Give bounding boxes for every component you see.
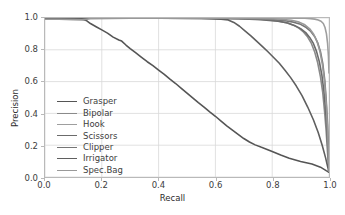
y-tick-mark (41, 114, 44, 115)
y-tick-mark (41, 17, 44, 18)
x-tick-label: 0.6 (209, 180, 223, 190)
legend-swatch-icon (57, 170, 77, 171)
x-tick-label: 0.8 (266, 180, 280, 190)
legend-item-hook[interactable]: Hook (57, 119, 123, 130)
y-tick-mark (41, 81, 44, 82)
legend-swatch-icon (57, 135, 77, 136)
legend-swatch-icon (57, 124, 77, 125)
y-tick-mark (41, 49, 44, 50)
legend-swatch-icon (57, 158, 77, 159)
x-axis-label: Recall (0, 193, 345, 203)
legend-swatch-icon (57, 101, 77, 102)
legend-label: Clipper (83, 143, 113, 152)
legend-item-scissors[interactable]: Scissors (57, 130, 123, 141)
x-tick-label: 0.2 (94, 180, 108, 190)
legend-item-clipper[interactable]: Clipper (57, 142, 123, 153)
legend-item-bipolar[interactable]: Bipolar (57, 107, 123, 118)
legend-item-irrigator[interactable]: Irrigator (57, 153, 123, 164)
legend-item-grasper[interactable]: Grasper (57, 96, 123, 107)
y-axis-label: Precision (10, 68, 20, 148)
legend-swatch-icon (57, 113, 77, 114)
legend: GrasperBipolarHookScissorsClipperIrrigat… (57, 96, 123, 176)
legend-item-spec-bag[interactable]: Spec.Bag (57, 164, 123, 175)
legend-label: Irrigator (83, 154, 117, 163)
legend-swatch-icon (57, 147, 77, 148)
y-tick-mark (41, 146, 44, 147)
precision-recall-figure: 0.00.20.40.60.81.0 0.00.20.40.60.81.0 Re… (0, 0, 345, 215)
y-tick-label: 0.0 (12, 173, 38, 183)
legend-label: Grasper (83, 97, 117, 106)
y-tick-label: 0.8 (12, 44, 38, 54)
legend-label: Hook (83, 120, 105, 129)
y-tick-mark (41, 178, 44, 179)
legend-label: Spec.Bag (83, 166, 123, 175)
x-tick-label: 1.0 (323, 180, 337, 190)
legend-label: Scissors (83, 132, 117, 141)
y-tick-label: 1.0 (12, 12, 38, 22)
series-line-hook (45, 18, 329, 73)
x-tick-label: 0.4 (152, 180, 166, 190)
legend-label: Bipolar (83, 109, 113, 118)
x-tick-label: 0.0 (37, 180, 51, 190)
